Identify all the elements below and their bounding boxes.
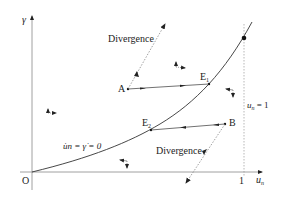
direction-glyph-right <box>226 89 233 97</box>
origin-label: O <box>22 176 29 186</box>
trajectory-A-E1 <box>128 84 209 90</box>
point-A-label: A <box>118 84 125 94</box>
un-equals-1-label: un = 1 <box>247 101 269 111</box>
trajectory-B-E2 <box>151 123 225 130</box>
x-axis-label-sub: n <box>261 180 264 186</box>
point-E2-label: E2 <box>142 118 151 129</box>
un-label-rest: = 1 <box>255 100 269 110</box>
direction-glyph-left <box>48 109 56 113</box>
point-B-label: B <box>229 118 236 128</box>
point-E1-label: E1 <box>200 72 209 83</box>
y-axis-label: γ <box>22 15 26 25</box>
direction-glyph-bottom <box>120 160 127 168</box>
curve-endpoint-dot <box>242 36 247 41</box>
divergence-bottom-label: Divergence <box>156 146 202 156</box>
direction-glyph-upper-mid <box>176 62 185 68</box>
curve-label: u̇n = γ̇ = 0 <box>63 142 101 151</box>
E1-sub: 1 <box>206 77 209 83</box>
phase-diagram <box>0 0 284 200</box>
E2-sub: 2 <box>148 123 151 129</box>
x-tick-label-1: 1 <box>239 176 244 186</box>
divergence-top-label: Divergence <box>108 34 154 44</box>
x-axis-label: un <box>256 175 264 186</box>
